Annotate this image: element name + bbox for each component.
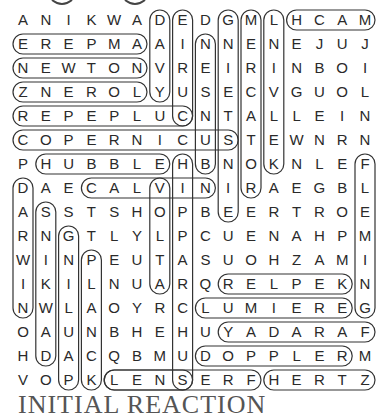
grid-letter: B bbox=[308, 57, 330, 79]
grid-letter: L bbox=[126, 153, 148, 175]
grid-letter: E bbox=[286, 297, 308, 319]
grid-letter: A bbox=[80, 297, 102, 319]
grid-letter: E bbox=[308, 345, 330, 367]
grid-letter: U bbox=[126, 249, 148, 271]
grid-letter: L bbox=[194, 297, 216, 319]
grid-letter: N bbox=[286, 153, 308, 175]
grid-letter: T bbox=[80, 225, 102, 247]
grid-letter: U bbox=[58, 153, 80, 175]
grid-letter: A bbox=[263, 177, 285, 199]
grid-letter: M bbox=[354, 345, 376, 367]
grid-letter: N bbox=[58, 249, 80, 271]
grid-letter: D bbox=[35, 345, 57, 367]
grid-letter: M bbox=[103, 33, 125, 55]
grid-letter: E bbox=[58, 33, 80, 55]
grid-letter: O bbox=[240, 249, 262, 271]
grid-letter: A bbox=[308, 249, 330, 271]
grid-letter: L bbox=[263, 105, 285, 127]
grid-letter: C bbox=[172, 105, 194, 127]
grid-letter: E bbox=[308, 105, 330, 127]
grid-letter: D bbox=[194, 345, 216, 367]
grid-letter: R bbox=[149, 297, 171, 319]
grid-letter: N bbox=[126, 57, 148, 79]
grid-letter: S bbox=[172, 369, 194, 391]
grid-letter: S bbox=[217, 129, 239, 151]
grid-letter: U bbox=[194, 129, 216, 151]
grid-letter: L bbox=[286, 345, 308, 367]
grid-letter: U bbox=[172, 81, 194, 103]
grid-letter: R bbox=[80, 81, 102, 103]
grid-letter: P bbox=[12, 153, 34, 175]
grid-letter: E bbox=[263, 129, 285, 151]
grid-letter: E bbox=[331, 153, 353, 175]
grid-letter: N bbox=[149, 369, 171, 391]
grid-letter: U bbox=[126, 273, 148, 295]
grid-letter: E bbox=[103, 249, 125, 271]
grid-letter: I bbox=[58, 273, 80, 295]
grid-letter: H bbox=[126, 201, 148, 223]
grid-letter: B bbox=[194, 201, 216, 223]
grid-letter: G bbox=[354, 297, 376, 319]
grid-letter: M bbox=[354, 9, 376, 31]
grid-letter: N bbox=[194, 177, 216, 199]
grid-letter: O bbox=[217, 345, 239, 367]
grid-letter: R bbox=[308, 297, 330, 319]
grid-letter: Y bbox=[126, 225, 148, 247]
grid-letter: L bbox=[126, 177, 148, 199]
grid-letter: I bbox=[331, 105, 353, 127]
grid-letter: I bbox=[58, 9, 80, 31]
grid-letter: L bbox=[80, 273, 102, 295]
grid-letter: I bbox=[172, 33, 194, 55]
grid-letter: N bbox=[354, 273, 376, 295]
grid-letter: M bbox=[240, 297, 262, 319]
grid-letter: V bbox=[149, 57, 171, 79]
grid-letter: W bbox=[103, 9, 125, 31]
grid-letter: N bbox=[263, 33, 285, 55]
grid-letter: W bbox=[12, 249, 34, 271]
grid-letter: E bbox=[149, 153, 171, 175]
grid-letter: P bbox=[58, 129, 80, 151]
grid-letter: B bbox=[126, 345, 148, 367]
grid-letter: A bbox=[12, 201, 34, 223]
grid-letter: I bbox=[217, 177, 239, 199]
grid-letter: L bbox=[103, 369, 125, 391]
grid-letter: R bbox=[103, 129, 125, 151]
grid-letter: M bbox=[149, 345, 171, 367]
grid-letter: G bbox=[286, 81, 308, 103]
grid-letter: C bbox=[172, 129, 194, 151]
grid-letter: S bbox=[103, 201, 125, 223]
grid-letter: R bbox=[172, 57, 194, 79]
grid-letter: V bbox=[149, 177, 171, 199]
grid-letter: A bbox=[35, 321, 57, 343]
grid-letter: Y bbox=[126, 297, 148, 319]
grid-letter: U bbox=[58, 321, 80, 343]
grid-letter: O bbox=[149, 201, 171, 223]
grid-letter: P bbox=[331, 225, 353, 247]
grid-letter: E bbox=[240, 201, 262, 223]
grid-letter: N bbox=[263, 225, 285, 247]
grid-letter: A bbox=[331, 321, 353, 343]
grid-letter: B bbox=[103, 153, 125, 175]
grid-letter: E bbox=[80, 129, 102, 151]
grid-letter: U bbox=[194, 321, 216, 343]
grid-letter: T bbox=[80, 57, 102, 79]
grid-letter: N bbox=[217, 153, 239, 175]
grid-letter: H bbox=[35, 153, 57, 175]
grid-letter: I bbox=[217, 57, 239, 79]
grid-letter: L bbox=[308, 153, 330, 175]
grid-letter: E bbox=[217, 81, 239, 103]
grid-letter: A bbox=[331, 9, 353, 31]
grid-letter: Y bbox=[217, 321, 239, 343]
grid-letter: Z bbox=[286, 249, 308, 271]
grid-letter: R bbox=[172, 273, 194, 295]
grid-letter: A bbox=[149, 273, 171, 295]
grid-letter: Y bbox=[149, 81, 171, 103]
grid-letter: K bbox=[35, 273, 57, 295]
grid-letter: T bbox=[149, 249, 171, 271]
grid-letter: N bbox=[35, 81, 57, 103]
grid-letter: H bbox=[308, 225, 330, 247]
grid-letter: B bbox=[331, 177, 353, 199]
footer-heading: INITIAL REACTION bbox=[18, 390, 266, 417]
grid-letter: R bbox=[12, 105, 34, 127]
grid-letter: O bbox=[331, 57, 353, 79]
